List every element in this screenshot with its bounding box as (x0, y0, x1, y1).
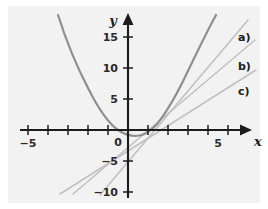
y-tick-label-5: 5 (110, 93, 118, 106)
y-tick-label-15: 15 (103, 31, 118, 44)
series-label-b: b) (238, 60, 251, 73)
line-a-path (100, 20, 248, 195)
chart-figure: 15 10 5 −5 −10 0 −5 5 y x a) b) c) (0, 0, 268, 209)
x-tick-label-minus-5: −5 (20, 137, 37, 150)
parabola-path (58, 15, 216, 136)
series-label-a: a) (238, 31, 250, 44)
y-tick-label-10: 10 (103, 62, 119, 75)
y-axis-label: y (108, 13, 118, 28)
line-b-path (73, 40, 255, 194)
origin-label: 0 (114, 136, 122, 149)
plot-canvas: 15 10 5 −5 −10 0 −5 5 y x a) b) c) (0, 0, 268, 209)
x-axis-label: x (253, 134, 262, 149)
x-axis-arrow (240, 125, 252, 136)
y-axis-arrow (123, 13, 134, 25)
x-tick-label-5: 5 (214, 137, 222, 150)
y-tick-label-minus-10: −10 (93, 186, 118, 199)
series-label-c: c) (238, 85, 250, 98)
y-tick-label-minus-5: −5 (101, 155, 118, 168)
